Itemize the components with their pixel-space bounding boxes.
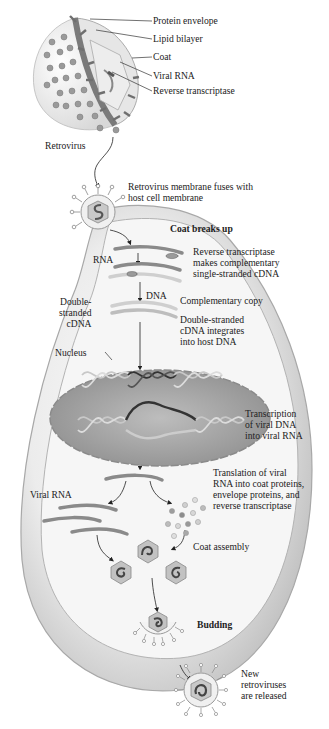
step-release: New retroviruses are released (241, 668, 287, 701)
label-dna: DNA (146, 290, 167, 301)
step-translation: Translation of viral RNA into coat prote… (213, 467, 304, 511)
step-transcription: Transcription of viral DNA into viral RN… (245, 408, 303, 441)
label-viral-rna-virion: Viral RNA (153, 70, 195, 81)
label-retrovirus: Retrovirus (45, 140, 86, 151)
diagram-canvas (0, 0, 329, 729)
label-nucleus: Nucleus (55, 347, 86, 358)
label-lipid-bilayer: Lipid bilayer (153, 33, 203, 44)
label-double-stranded-cdna: Double- stranded cDNA (59, 296, 92, 329)
retrovirus-life-cycle-diagram: Protein envelope Lipid bilayer Coat Vira… (0, 0, 329, 729)
label-viral-rna: Viral RNA (30, 489, 72, 500)
retrovirus-virion (33, 16, 152, 186)
label-rna: RNA (93, 254, 113, 265)
label-protein-envelope: Protein envelope (153, 15, 218, 26)
step-reverse-transcription: Reverse transcriptase makes complementar… (193, 246, 280, 279)
label-reverse-transcriptase: Reverse transcriptase (153, 85, 235, 96)
step-integration: Double-stranded cDNA integrates into hos… (180, 314, 244, 347)
step-coat-assembly: Coat assembly (193, 541, 249, 552)
label-coat: Coat (153, 51, 171, 62)
step-fusion: Retrovirus membrane fuses with host cell… (128, 181, 253, 203)
step-budding: Budding (197, 619, 232, 630)
step-complementary-copy: Complementary copy (180, 295, 263, 306)
step-coat-breaks-up: Coat breaks up (170, 223, 233, 234)
